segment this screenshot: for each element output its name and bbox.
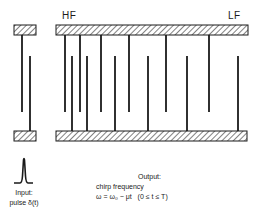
input-label: Input: pulse δ(t) [3,189,45,206]
high-frequency-label: HF [62,11,76,21]
output-description: chirp frequency [96,183,226,190]
output-label: Output: chirp frequency ω = ω₀ − μt (0 ≤… [96,173,226,200]
top-bus-bar [14,25,36,35]
output-title: Output: [96,173,226,180]
bottom-bus-bar [14,131,36,141]
input-signal: pulse δ(t) [3,199,45,206]
top-bus-bar [56,25,248,35]
input-title: Input: [3,189,45,196]
dispersive-transducer [56,25,248,141]
impulse-pulse-icon [14,159,33,184]
bottom-bus-bar [56,131,247,141]
reference-transducer [14,25,36,141]
low-frequency-label: LF [228,11,241,21]
output-formula: ω = ω₀ − μt (0 ≤ t ≤ T) [96,193,226,200]
